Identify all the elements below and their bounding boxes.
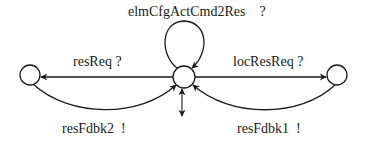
self-loop-edge xyxy=(165,21,204,68)
label-resreq: resReq ? xyxy=(73,55,122,69)
label-self-loop: elmCfgActCmd2Res ? xyxy=(128,5,266,19)
edge-resfdbk1 xyxy=(193,85,335,110)
state-node-center xyxy=(173,66,195,88)
state-node-right xyxy=(327,65,347,85)
label-resfdbk1: resFdbk1 ! xyxy=(237,122,301,136)
state-diagram xyxy=(0,0,368,143)
label-locresreq: locResReq ? xyxy=(233,55,303,69)
label-resfdbk2: resFdbk2 ! xyxy=(62,122,126,136)
edge-resfdbk2 xyxy=(33,84,176,110)
state-node-left xyxy=(20,65,40,85)
